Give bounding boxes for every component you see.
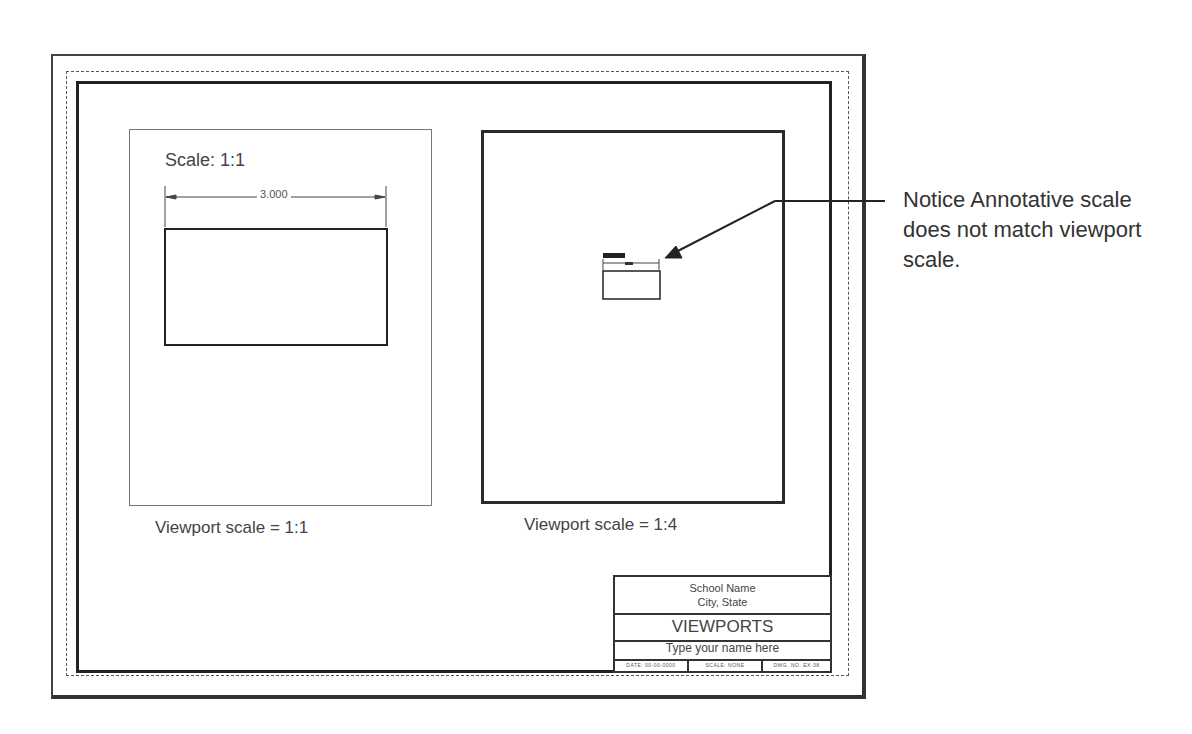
drawing-number-field: DWG. NO. EX-38 [763, 659, 830, 673]
school-name: School Name [615, 581, 830, 595]
callout-leader [665, 201, 885, 258]
callout-note: Notice Annotative scale does not match v… [903, 185, 1163, 275]
title-block-school: School Name City, State [615, 577, 830, 615]
viewport-right-caption: Viewport scale = 1:4 [524, 515, 677, 535]
annotation-scale-text-small [603, 253, 625, 258]
leader-arrowhead-icon [665, 246, 682, 258]
date-field: DATE: 00-00-0000 [615, 659, 689, 673]
dimension-value: 3.000 [257, 188, 291, 200]
rectangle-left [165, 229, 387, 345]
scale-field: SCALE: NONE [689, 659, 763, 673]
viewport-left-caption: Viewport scale = 1:1 [155, 518, 308, 538]
title-block: School Name City, State VIEWPORTS Type y… [613, 575, 832, 673]
city-state: City, State [615, 595, 830, 609]
rectangle-right [603, 271, 660, 299]
title-block-footer: DATE: 00-00-0000 SCALE: NONE DWG. NO. EX… [615, 659, 830, 673]
title-block-title: VIEWPORTS [615, 615, 830, 642]
drawing-geometry [0, 0, 1192, 734]
title-block-name-field[interactable]: Type your name here [615, 640, 830, 661]
